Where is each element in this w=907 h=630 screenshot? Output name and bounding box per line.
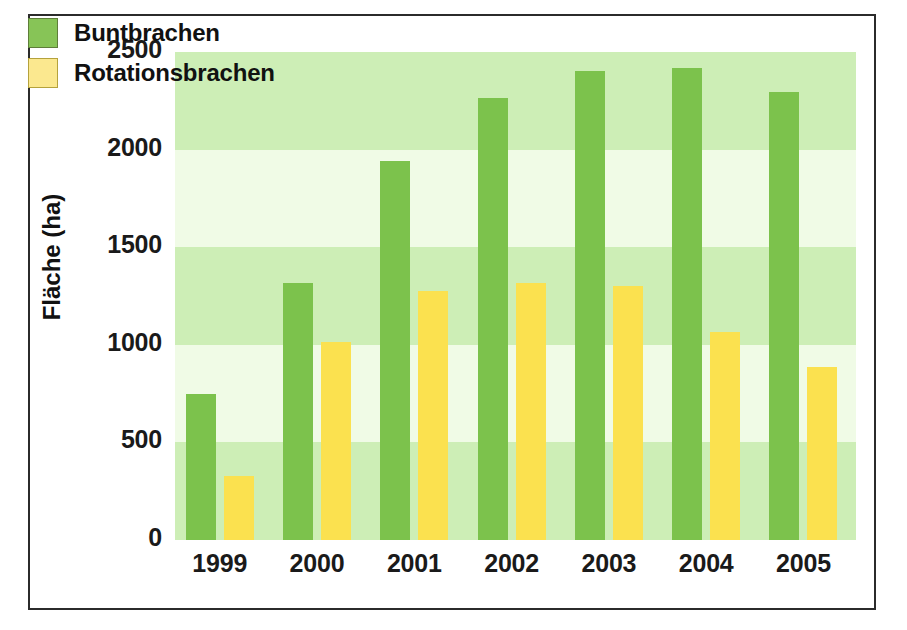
bar-2001-buntbrachen: [380, 161, 410, 540]
x-tick-label: 2005: [743, 549, 863, 578]
legend-item-rotationsbrachen[interactable]: Rotationsbrachen: [28, 56, 275, 90]
y-tick-label: 500: [90, 425, 162, 454]
bar-2003-rotationsbrachen: [613, 286, 643, 540]
y-tick-label: 0: [90, 523, 162, 552]
y-tick-label: 2000: [90, 133, 162, 162]
y-axis-ticks: 05001000150020002500: [90, 0, 162, 630]
y-tick-label: 1500: [90, 230, 162, 259]
bar-2004-rotationsbrachen: [710, 332, 740, 540]
y-axis-label: Fläche (ha): [38, 157, 66, 357]
bar-2004-buntbrachen: [672, 68, 702, 540]
chart-legend: Buntbrachen Rotationsbrachen: [28, 16, 275, 90]
bar-1999-buntbrachen: [186, 394, 216, 540]
bar-1999-rotationsbrachen: [224, 476, 254, 540]
legend-label: Buntbrachen: [74, 19, 220, 47]
bar-2002-rotationsbrachen: [516, 283, 546, 540]
bar-series-container: [175, 52, 856, 540]
bar-2005-rotationsbrachen: [807, 367, 837, 540]
bar-2000-buntbrachen: [283, 283, 313, 540]
green-swatch-icon: [28, 18, 58, 48]
plot-area: [175, 52, 856, 540]
y-tick-label: 1000: [90, 328, 162, 357]
bar-2002-buntbrachen: [478, 98, 508, 540]
legend-label: Rotationsbrachen: [74, 59, 275, 87]
bar-2005-buntbrachen: [769, 92, 799, 540]
legend-item-buntbrachen[interactable]: Buntbrachen: [28, 16, 275, 50]
bar-2003-buntbrachen: [575, 71, 605, 540]
chart-figure: Fläche (ha) 05001000150020002500 1999200…: [0, 0, 907, 630]
yellow-swatch-icon: [28, 58, 58, 88]
bar-2001-rotationsbrachen: [418, 291, 448, 540]
bar-2000-rotationsbrachen: [321, 342, 351, 540]
